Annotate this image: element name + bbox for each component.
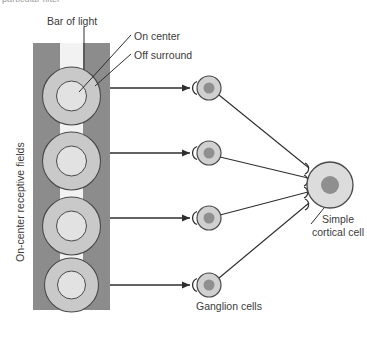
receptive-field-4 [45, 258, 99, 312]
on-center-disc-4 [58, 271, 86, 299]
ganglion-nucleus-4 [204, 280, 215, 291]
receptive-field-2 [43, 132, 101, 190]
ganglion-nucleus-2 [204, 148, 215, 159]
ganglion-to-cortical-axons [219, 95, 309, 278]
axon-ganglion-to-cortical-1 [219, 95, 309, 168]
cortical-nucleus [321, 176, 339, 194]
on-center-disc-1 [57, 81, 87, 111]
ganglion-cell-4 [197, 273, 221, 297]
label-bar-of-light: Bar of light [47, 15, 97, 28]
arrowhead-3 [182, 215, 190, 222]
label-simple-cortical-cell: Simple cortical cell [309, 213, 367, 238]
label-on-center-receptive-fields-axis: On-center receptive fields [14, 142, 26, 262]
ganglion-terminal-4 [193, 279, 197, 292]
ganglion-nucleus-3 [204, 213, 215, 224]
ganglion-terminal-3 [193, 212, 197, 225]
axon-ganglion-to-cortical-2 [220, 157, 308, 178]
rf-to-ganglion-axons [110, 85, 190, 289]
ganglion-terminal-1 [193, 82, 197, 95]
simple-cortical-cell [307, 162, 353, 208]
receptive-field-convergence-figure: particular filter [0, 0, 367, 347]
ganglion-cell-2 [197, 141, 221, 165]
axon-ganglion-to-cortical-3 [220, 192, 308, 215]
ganglion-cell-1 [197, 76, 221, 100]
receptive-field-1 [43, 67, 101, 125]
ganglion-nucleus-1 [204, 83, 215, 94]
on-center-disc-2 [57, 146, 87, 176]
arrowhead-2 [182, 150, 190, 157]
on-center-disc-3 [57, 211, 87, 241]
arrowhead-1 [182, 85, 190, 92]
label-on-center: On center [134, 30, 180, 43]
receptive-field-3 [43, 197, 101, 255]
label-ganglion-cells: Ganglion cells [196, 300, 262, 313]
ganglion-terminal-2 [193, 147, 197, 160]
ganglion-cell-3 [197, 206, 221, 230]
arrowhead-4 [182, 282, 190, 289]
axon-ganglion-to-cortical-4 [219, 203, 309, 278]
ganglion-dendrite-terminals [193, 82, 197, 292]
label-off-surround: Off surround [134, 49, 192, 62]
